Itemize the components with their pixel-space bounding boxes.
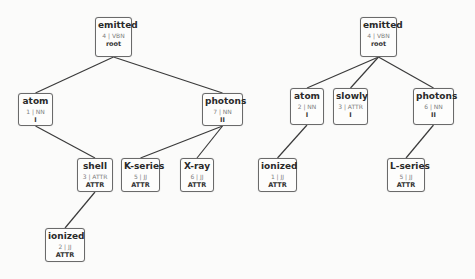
- tree-edge: [65, 192, 95, 228]
- tree-edge: [406, 125, 434, 158]
- node-word: ionized: [261, 161, 294, 172]
- node-word: slowly: [336, 91, 365, 102]
- node-index-pos: 6 | NN: [416, 102, 451, 111]
- tree-edge: [307, 57, 379, 88]
- node-role: I: [336, 111, 365, 120]
- tree-node-emitted: emitted4 | VBNroot: [95, 17, 132, 57]
- node-word: emitted: [98, 20, 129, 31]
- tree-node-k-series: K-series5 | JJATTR: [121, 158, 160, 192]
- tree-node-atom: atom1 | NNI: [18, 93, 53, 126]
- tree-node-photons: photons7 | NNII: [202, 93, 243, 126]
- node-word: L-series: [390, 161, 422, 172]
- tree-edge: [379, 57, 434, 88]
- node-word: emitted: [363, 20, 394, 31]
- tree-node-ionized: ionized2 | JJATTR: [45, 228, 85, 262]
- node-word: ionized: [48, 231, 82, 242]
- node-role: ATTR: [183, 181, 211, 190]
- tree-node-slowly: slowly3 | ATTRI: [333, 88, 368, 125]
- tree-edge: [114, 57, 223, 93]
- node-role: ATTR: [261, 181, 294, 190]
- node-index-pos: 1 | NN: [21, 107, 50, 116]
- tree-edge: [36, 126, 96, 158]
- node-index-pos: 3 | ATTR: [80, 172, 110, 181]
- node-word: atom: [293, 91, 321, 102]
- node-role: I: [293, 111, 321, 120]
- node-role: ATTR: [48, 251, 82, 260]
- node-role: I: [21, 116, 50, 125]
- tree-node-photons: photons6 | NNII: [413, 88, 454, 125]
- tree-node-x-ray: X-ray6 | JJATTR: [180, 158, 214, 192]
- node-role: ATTR: [390, 181, 422, 190]
- node-word: X-ray: [183, 161, 211, 172]
- tree-node-ionized: ionized1 | JJATTR: [258, 158, 297, 192]
- tree-node-shell: shell3 | ATTRATTR: [77, 158, 113, 192]
- node-index-pos: 5 | JJ: [390, 172, 422, 181]
- node-role: root: [98, 40, 129, 49]
- node-word: K-series: [124, 161, 157, 172]
- tree-edge: [351, 57, 379, 88]
- node-role: II: [416, 111, 451, 120]
- node-role: ATTR: [124, 181, 157, 190]
- node-role: II: [205, 116, 240, 125]
- node-word: atom: [21, 96, 50, 107]
- node-index-pos: 7 | NN: [205, 107, 240, 116]
- node-word: photons: [205, 96, 240, 107]
- node-index-pos: 6 | JJ: [183, 172, 211, 181]
- node-word: shell: [80, 161, 110, 172]
- tree-node-atom: atom2 | NNI: [290, 88, 324, 125]
- node-word: photons: [416, 91, 451, 102]
- node-role: root: [363, 40, 394, 49]
- node-role: ATTR: [80, 181, 110, 190]
- node-index-pos: 2 | NN: [293, 102, 321, 111]
- tree-edge: [36, 57, 114, 93]
- tree-edge: [278, 125, 308, 158]
- tree-node-emitted: emitted4 | VBNroot: [360, 17, 397, 57]
- node-index-pos: 3 | ATTR: [336, 102, 365, 111]
- node-index-pos: 5 | JJ: [124, 172, 157, 181]
- tree-node-l-series: L-series5 | JJATTR: [387, 158, 425, 192]
- node-index-pos: 2 | JJ: [48, 242, 82, 251]
- node-index-pos: 4 | VBN: [98, 31, 129, 40]
- node-index-pos: 1 | JJ: [261, 172, 294, 181]
- node-index-pos: 4 | VBN: [363, 31, 394, 40]
